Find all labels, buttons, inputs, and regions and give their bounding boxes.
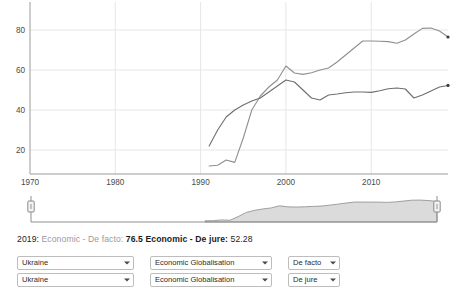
chart-area: 20406080 19701980199020002010 [0,0,455,196]
dimension-select-1[interactable]: Economic Globalisation [150,256,272,270]
control-row-1: Ukraine Economic Globalisation De facto [17,256,437,270]
y-tick-label: 60 [16,66,26,75]
y-tick-label: 80 [16,26,26,35]
country-select-1-value: Ukraine [22,257,48,269]
x-tick-label: 1980 [106,178,125,187]
series-endpoint-marker [446,84,449,87]
dimension-select-2[interactable]: Economic Globalisation [150,273,272,287]
x-axis-tick-labels: 19701980199020002010 [21,178,381,187]
country-select-1[interactable]: Ukraine [17,256,134,270]
range-overview-area [205,200,437,222]
dimension-select-1-value: Economic Globalisation [155,257,234,269]
readout-series1-label: Economic - De facto: [42,234,124,244]
control-row-2: Ukraine Economic Globalisation De jure [17,273,437,287]
chart-endpoint-markers [446,35,449,87]
country-select-2[interactable]: Ukraine [17,273,134,287]
x-tick-label: 1990 [192,178,211,187]
chevron-down-icon [330,279,336,282]
y-axis-tick-labels: 20406080 [16,26,26,155]
chevron-down-icon [124,279,130,282]
chevron-down-icon [330,262,336,265]
type-select-2-value: De jure [293,274,317,286]
right-brush-handle[interactable] [434,201,440,212]
left-brush-handle[interactable] [28,201,34,212]
type-select-1[interactable]: De facto [288,256,340,270]
x-tick-label: 2010 [362,178,381,187]
series-endpoint-marker [446,35,449,38]
chevron-down-icon [262,279,268,282]
selector-controls: Ukraine Economic Globalisation De facto … [17,256,437,290]
x-tick-label: 1970 [21,178,40,187]
readout-series2-label: Economic - De jure: [145,234,228,244]
value-readout: 2019: Economic - De facto: 76.5 Economic… [17,233,253,245]
range-selector[interactable] [0,194,455,230]
type-select-1-value: De facto [293,257,321,269]
country-select-2-value: Ukraine [22,274,48,286]
y-tick-label: 40 [16,106,26,115]
chart-series-layer [209,28,448,166]
chevron-down-icon [262,262,268,265]
readout-year: 2019: [17,234,39,244]
readout-series1-value: 76.5 [126,234,143,244]
dimension-select-2-value: Economic Globalisation [155,274,234,286]
series-line [209,80,448,146]
type-select-2[interactable]: De jure [288,273,340,287]
line-chart: 20406080 19701980199020002010 [0,0,455,196]
x-tick-label: 2000 [277,178,296,187]
y-tick-label: 20 [16,146,26,155]
chart-axes [30,2,448,174]
chart-gridlines [30,2,448,174]
readout-series2-value: 52.28 [231,234,253,244]
globalisation-chart-panel: 20406080 19701980199020002010 2019: Econ… [0,0,455,304]
chevron-down-icon [124,262,130,265]
range-overview-area-shape [205,200,437,222]
range-selector-svg[interactable] [0,194,455,230]
series-line [209,28,448,166]
